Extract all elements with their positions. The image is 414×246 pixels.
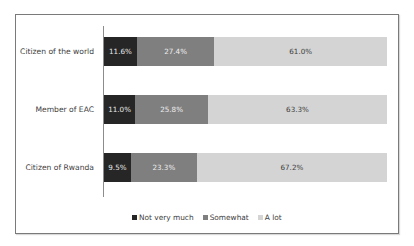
legend-item-somewhat: Somewhat (203, 213, 249, 222)
segment-not-very-much: 11.6% (104, 37, 137, 66)
data-label: 63.3% (286, 105, 309, 114)
bar-row-member-of-eac: Member of EAC 11.0% 25.8% 63.3% (0, 95, 414, 124)
segment-a-lot: 67.2% (197, 153, 387, 182)
category-label: Citizen of Rwanda (25, 153, 94, 182)
legend-item-not-very-much: Not very much (132, 213, 194, 222)
legend-label: A lot (265, 213, 282, 222)
bar-row-citizen-of-rwanda: Citizen of Rwanda 9.5% 23.3% 67.2% (0, 153, 414, 182)
legend-item-a-lot: A lot (258, 213, 282, 222)
bar-row-citizen-of-the-world: Citizen of the world 11.6% 27.4% 61.0% (0, 37, 414, 66)
segment-a-lot: 61.0% (214, 37, 387, 66)
legend-swatch-icon (258, 215, 263, 220)
legend-label: Somewhat (210, 213, 249, 222)
segment-not-very-much: 9.5% (104, 153, 131, 182)
data-label: 67.2% (280, 163, 303, 172)
legend-label: Not very much (139, 213, 194, 222)
stacked-bar: 11.6% 27.4% 61.0% (104, 37, 387, 66)
segment-somewhat: 27.4% (137, 37, 215, 66)
category-label: Member of EAC (35, 95, 94, 124)
segment-not-very-much: 11.0% (104, 95, 135, 124)
stacked-bar: 11.0% 25.8% 63.3% (104, 95, 387, 124)
stacked-bar: 9.5% 23.3% 67.2% (104, 153, 387, 182)
segment-a-lot: 63.3% (208, 95, 387, 124)
data-label: 25.8% (160, 105, 183, 114)
data-label: 9.5% (108, 163, 126, 172)
data-label: 23.3% (152, 163, 175, 172)
category-label: Citizen of the world (20, 37, 94, 66)
data-label: 11.0% (108, 105, 131, 114)
data-label: 61.0% (289, 47, 312, 56)
data-label: 27.4% (164, 47, 187, 56)
segment-somewhat: 23.3% (131, 153, 197, 182)
legend-swatch-icon (132, 215, 137, 220)
legend: Not very much Somewhat A lot (132, 211, 291, 223)
data-label: 11.6% (109, 47, 132, 56)
segment-somewhat: 25.8% (135, 95, 208, 124)
legend-swatch-icon (203, 215, 208, 220)
